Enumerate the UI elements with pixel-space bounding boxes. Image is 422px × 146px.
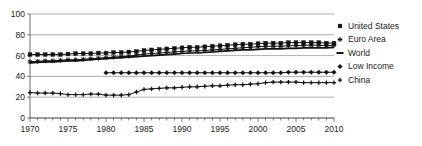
data-point-marker [263,44,268,49]
data-point-marker [309,70,314,75]
data-point-marker [127,70,132,75]
x-tick-label: 2010 [325,124,344,134]
data-point-marker [35,91,39,95]
data-point-marker [51,91,55,95]
series-lines [28,41,337,98]
data-point-marker [172,70,177,75]
data-point-marker [165,70,170,75]
data-point-marker [263,70,268,75]
legend-item-china[interactable]: China [338,75,371,85]
data-point-marker [309,43,314,48]
data-point-marker [225,70,230,75]
legend-marker-star-icon [338,37,343,42]
data-point-marker [73,92,77,96]
y-tick-label: 100 [11,9,25,19]
data-point-marker [96,92,100,96]
x-tick-label: 1970 [21,124,40,134]
data-point-marker [51,53,55,57]
data-point-marker [324,70,329,75]
data-point-marker [172,86,176,90]
data-point-marker [66,52,70,56]
data-point-marker [187,85,191,89]
data-point-marker [233,83,237,87]
data-point-marker [165,86,169,90]
data-point-marker [43,53,47,57]
legend-item-united-states[interactable]: United States [338,21,399,31]
data-point-marker [241,70,246,75]
legend-label: Low Income [348,61,394,71]
data-point-marker [89,52,93,56]
data-point-marker [104,51,108,55]
data-point-marker [248,70,253,75]
data-point-marker [210,70,215,75]
y-tick-label: 40 [16,71,26,81]
legend-marker-plus-icon [338,78,342,82]
data-point-marker [28,90,32,94]
data-point-marker [271,80,275,84]
data-point-marker [112,51,116,55]
legend-label: United States [348,21,399,31]
data-point-marker [97,51,101,55]
x-tick-label: 1990 [173,124,192,134]
data-point-marker [28,53,32,57]
y-tick-label: 80 [16,30,26,40]
data-point-marker [111,93,115,97]
data-point-marker [203,70,208,75]
data-point-marker [286,43,291,48]
data-point-marker [111,70,116,75]
data-point-marker [104,70,109,75]
data-point-marker [301,80,305,84]
data-point-marker [241,83,245,87]
y-tick-label: 20 [16,92,26,102]
data-point-marker [187,70,192,75]
data-point-marker [317,70,322,75]
x-tick-label: 2005 [287,124,306,134]
data-point-marker [104,93,108,97]
data-point-marker [180,85,184,89]
legend-label: World [348,48,370,58]
line-chart: 020406080100 197019751980198519901995200… [0,0,422,146]
x-tick-label: 1975 [59,124,78,134]
data-point-marker [332,70,337,75]
data-point-marker [142,87,146,91]
legend-item-euro-area[interactable]: Euro Area [338,34,386,44]
data-point-marker [203,84,207,88]
y-axis: 020406080100 [11,9,30,123]
series-china [28,80,336,97]
grid-lines [30,14,334,118]
data-point-marker [66,92,70,96]
data-point-marker [218,84,222,88]
data-point-marker [271,44,276,49]
data-point-marker [81,52,85,56]
data-point-marker [263,80,267,84]
y-tick-label: 0 [20,113,25,123]
data-point-marker [218,70,223,75]
data-point-marker [149,70,154,75]
legend-label: China [348,75,370,85]
legend-item-world[interactable]: World [337,48,371,58]
chart-container: 020406080100 197019751980198519901995200… [0,0,422,146]
legend-label: Euro Area [348,34,386,44]
data-point-marker [301,43,306,48]
data-point-marker [279,80,283,84]
legend-marker-diamond-icon [338,64,343,69]
data-point-marker [256,81,260,85]
data-point-marker [157,70,162,75]
data-point-marker [58,91,62,95]
data-point-marker [294,70,299,75]
data-point-marker [127,92,131,96]
data-point-marker [286,70,291,75]
data-point-marker [119,93,123,97]
data-point-marker [142,70,147,75]
data-point-marker [316,43,321,48]
data-point-marker [36,53,40,57]
data-point-marker [286,80,290,84]
data-point-marker [195,85,199,89]
data-point-marker [233,70,238,75]
data-point-marker [81,92,85,96]
series-low-income [104,70,337,75]
data-point-marker [119,51,123,55]
legend-item-low-income[interactable]: Low Income [338,61,394,71]
data-point-marker [134,90,138,94]
chart-svg: 020406080100 197019751980198519901995200… [0,0,422,146]
